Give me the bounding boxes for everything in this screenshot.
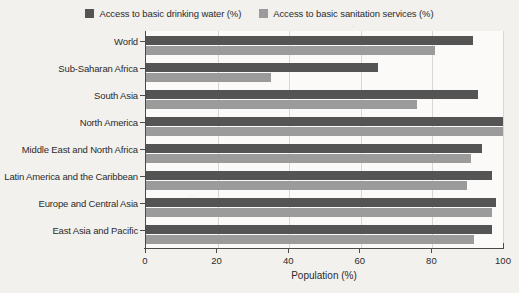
x-axis-tick-0 bbox=[145, 248, 146, 253]
x-axis-label-20: 20 bbox=[202, 255, 232, 266]
bar-east-asia-and-pacific-drinking-water bbox=[146, 225, 492, 234]
y-axis-tick-south-asia bbox=[140, 95, 145, 96]
y-axis-tick-north-america bbox=[140, 122, 145, 123]
x-axis-tick-60 bbox=[359, 248, 360, 253]
x-axis-tick-80 bbox=[431, 248, 432, 253]
legend-label-sanitation: Access to basic sanitation services (%) bbox=[273, 8, 433, 19]
gridline-100 bbox=[503, 31, 504, 248]
x-axis-tick-40 bbox=[288, 248, 289, 253]
x-axis-label-60: 60 bbox=[345, 255, 375, 266]
y-axis-tick-middle-east-and-north-africa bbox=[140, 149, 145, 150]
y-axis-label-middle-east-and-north-africa: Middle East and North Africa bbox=[0, 144, 138, 155]
x-axis-title: Population (%) bbox=[145, 270, 503, 282]
x-axis-tick-20 bbox=[216, 248, 217, 253]
x-axis-label-100: 100 bbox=[488, 255, 518, 266]
legend-item-sanitation: Access to basic sanitation services (%) bbox=[259, 8, 433, 19]
y-axis-tick-world bbox=[140, 41, 145, 42]
bar-chart: Access to basic drinking water (%) Acces… bbox=[0, 0, 519, 293]
x-axis-label-0: 0 bbox=[130, 255, 160, 266]
legend-label-drinking-water: Access to basic drinking water (%) bbox=[99, 8, 241, 19]
y-axis-label-europe-and-central-asia: Europe and Central Asia bbox=[0, 198, 138, 209]
y-axis-tick-europe-and-central-asia bbox=[140, 203, 145, 204]
x-axis-label-80: 80 bbox=[416, 255, 446, 266]
y-axis-label-latin-america-and-the-caribbean: Latin America and the Caribbean bbox=[0, 171, 138, 182]
bar-north-america-drinking-water bbox=[146, 117, 503, 126]
y-axis-tick-east-asia-and-pacific bbox=[140, 230, 145, 231]
bar-middle-east-and-north-africa-sanitation bbox=[146, 154, 471, 163]
chart-legend: Access to basic drinking water (%) Acces… bbox=[0, 8, 519, 19]
bar-south-asia-drinking-water bbox=[146, 90, 478, 99]
x-axis-end-cap bbox=[503, 243, 504, 249]
x-axis-line bbox=[144, 248, 504, 249]
x-axis-label-40: 40 bbox=[273, 255, 303, 266]
y-axis-label-east-asia-and-pacific: East Asia and Pacific bbox=[0, 225, 138, 236]
bar-europe-and-central-asia-drinking-water bbox=[146, 198, 496, 207]
y-axis-label-north-america: North America bbox=[0, 117, 138, 128]
y-axis-label-south-asia: South Asia bbox=[0, 90, 138, 101]
bar-sub-saharan-africa-sanitation bbox=[146, 73, 271, 82]
bar-world-drinking-water bbox=[146, 36, 473, 45]
bar-latin-america-and-the-caribbean-drinking-water bbox=[146, 171, 492, 180]
bar-middle-east-and-north-africa-drinking-water bbox=[146, 144, 482, 153]
bar-world-sanitation bbox=[146, 46, 435, 55]
legend-swatch-sanitation bbox=[259, 9, 268, 18]
y-axis-tick-latin-america-and-the-caribbean bbox=[140, 176, 145, 177]
y-axis-label-world: World bbox=[0, 36, 138, 47]
bar-south-asia-sanitation bbox=[146, 100, 417, 109]
bar-europe-and-central-asia-sanitation bbox=[146, 208, 492, 217]
bar-latin-america-and-the-caribbean-sanitation bbox=[146, 181, 467, 190]
bar-sub-saharan-africa-drinking-water bbox=[146, 63, 378, 72]
bar-north-america-sanitation bbox=[146, 127, 503, 136]
y-axis-tick-sub-saharan-africa bbox=[140, 68, 145, 69]
legend-swatch-drinking-water bbox=[85, 9, 94, 18]
y-axis-label-sub-saharan-africa: Sub-Saharan Africa bbox=[0, 63, 138, 74]
plot-area bbox=[145, 31, 504, 248]
legend-item-drinking-water: Access to basic drinking water (%) bbox=[85, 8, 241, 19]
bar-east-asia-and-pacific-sanitation bbox=[146, 235, 474, 244]
